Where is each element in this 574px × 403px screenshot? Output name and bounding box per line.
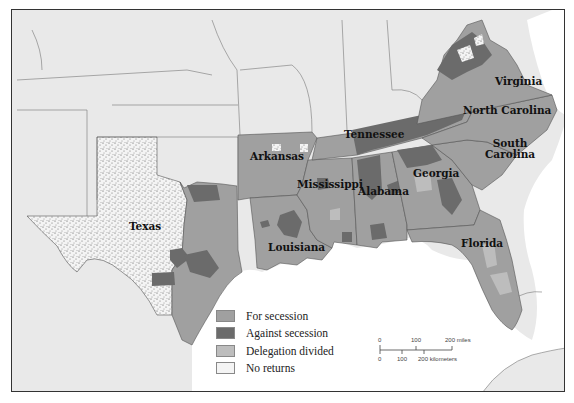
label-arkansas: Arkansas [250,151,304,162]
label-louisiana: Louisiana [268,242,325,253]
scale-miles-100: 100 [411,337,421,343]
swatch-no-returns [216,362,235,374]
label-alabama: Alabama [358,186,409,197]
legend-item-delegation-divided: Delegation divided [216,342,334,360]
label-georgia: Georgia [413,168,459,179]
legend-item-for-secession: For secession [216,307,334,325]
scale-miles-0: 0 [378,337,381,343]
scale-bar: 0 100 200 miles 0 100 200 kilometers [370,330,490,370]
label-texas: Texas [129,221,161,232]
label-mississippi: Mississippi [297,179,363,190]
swatch-for-secession [216,310,235,322]
scale-km-200: 200 kilometers [418,356,457,362]
scale-miles-200: 200 miles [445,337,471,343]
label-florida: Florida [461,238,503,249]
scale-bar-graphic [370,330,490,370]
legend: For secession Against secession Delegati… [216,307,334,377]
label-south-carolina: South Carolina [485,138,535,160]
swatch-delegation-divided [216,345,235,357]
label-tennessee: Tennessee [344,129,404,140]
swatch-against-secession [216,327,235,339]
legend-item-no-returns: No returns [216,360,334,378]
label-virginia: Virginia [495,76,542,87]
legend-item-against-secession: Against secession [216,325,334,343]
scale-km-100: 100 [397,356,407,362]
scale-km-0: 0 [378,356,381,362]
label-north-carolina: North Carolina [463,105,551,116]
